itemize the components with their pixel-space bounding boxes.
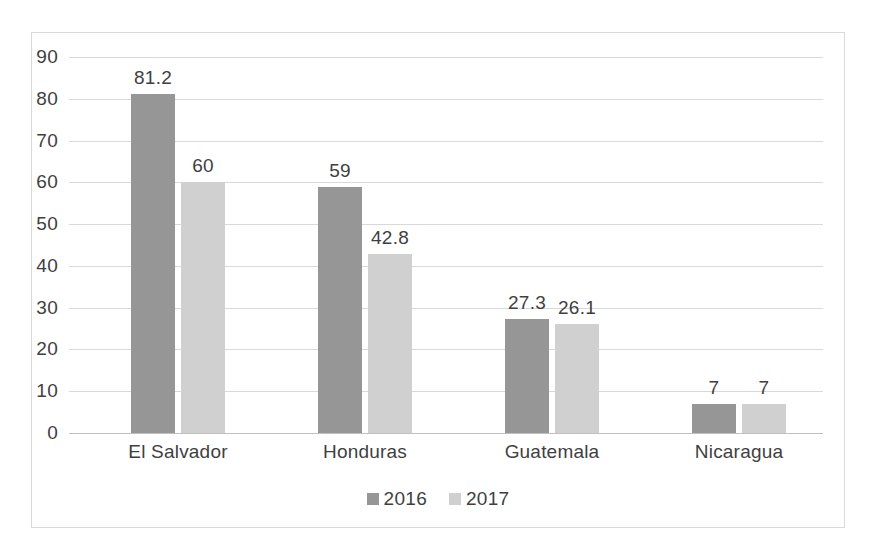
bar-value-label: 27.3 xyxy=(508,292,546,314)
bars-layer: 81.2605942.827.326.177 xyxy=(69,57,823,433)
bar-2017-nicaragua[interactable]: 7 xyxy=(742,404,786,433)
y-axis-tick-label: 70 xyxy=(36,130,58,152)
plot-area: 9080706050403020100 81.2605942.827.326.1… xyxy=(69,57,823,433)
bar-value-label: 59 xyxy=(329,160,351,182)
legend-label: 2017 xyxy=(466,488,509,510)
bar-rect xyxy=(742,404,786,433)
bar-rect xyxy=(181,182,225,433)
bar-2017-el-salvador[interactable]: 60 xyxy=(181,182,225,433)
y-axis-tick-label: 80 xyxy=(36,88,58,110)
y-axis-tick-label: 90 xyxy=(36,46,58,68)
x-axis-category-label: Honduras xyxy=(323,441,407,463)
bar-2016-el-salvador[interactable]: 81.2 xyxy=(131,94,175,433)
bar-rect xyxy=(692,404,736,433)
bar-value-label: 7 xyxy=(759,377,770,399)
bar-2016-honduras[interactable]: 59 xyxy=(318,187,362,433)
y-axis-tick-label: 60 xyxy=(36,171,58,193)
bar-group: 81.260 xyxy=(131,57,225,433)
chart-legend: 20162017 xyxy=(32,488,844,510)
bar-2016-nicaragua[interactable]: 7 xyxy=(692,404,736,433)
legend-swatch-icon xyxy=(367,493,379,505)
bar-value-label: 7 xyxy=(709,377,720,399)
bar-rect xyxy=(318,187,362,433)
chart-container: 9080706050403020100 81.2605942.827.326.1… xyxy=(31,32,845,528)
legend-swatch-icon xyxy=(449,493,461,505)
y-axis-tick-label: 20 xyxy=(36,338,58,360)
legend-item-2017[interactable]: 2017 xyxy=(449,488,509,510)
bar-group: 5942.8 xyxy=(318,57,412,433)
legend-label: 2016 xyxy=(384,488,427,510)
bar-rect xyxy=(131,94,175,433)
bar-2017-guatemala[interactable]: 26.1 xyxy=(555,324,599,433)
x-axis-category-label: Nicaragua xyxy=(695,441,783,463)
bar-value-label: 42.8 xyxy=(371,227,409,249)
bar-2016-guatemala[interactable]: 27.3 xyxy=(505,319,549,433)
legend-item-2016[interactable]: 2016 xyxy=(367,488,427,510)
x-axis-category-labels: El SalvadorHondurasGuatemalaNicaragua xyxy=(69,441,823,471)
bar-rect xyxy=(368,254,412,433)
bar-rect xyxy=(555,324,599,433)
y-axis-tick-label: 40 xyxy=(36,255,58,277)
bar-group: 27.326.1 xyxy=(505,57,599,433)
x-axis-category-label: Guatemala xyxy=(505,441,600,463)
x-axis-category-label: El Salvador xyxy=(128,441,227,463)
y-axis-tick-label: 10 xyxy=(36,380,58,402)
bar-value-label: 81.2 xyxy=(134,67,172,89)
y-axis-tick-label: 0 xyxy=(47,422,58,444)
bar-group: 77 xyxy=(692,57,786,433)
y-axis-tick-label: 50 xyxy=(36,213,58,235)
y-axis-tick-label: 30 xyxy=(36,297,58,319)
gridline xyxy=(69,433,823,434)
bar-2017-honduras[interactable]: 42.8 xyxy=(368,254,412,433)
bar-value-label: 60 xyxy=(192,155,214,177)
bar-rect xyxy=(505,319,549,433)
bar-value-label: 26.1 xyxy=(558,297,596,319)
